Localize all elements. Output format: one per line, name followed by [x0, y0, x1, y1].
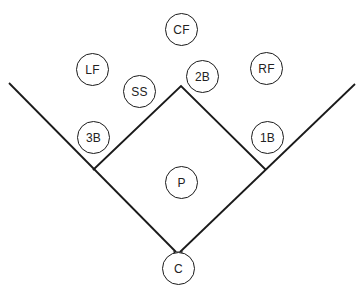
position-label: P	[177, 176, 185, 190]
left-foul-line	[9, 83, 176, 252]
position-label: C	[174, 262, 183, 276]
position-left-field: LF	[76, 53, 109, 86]
position-label: 2B	[195, 70, 210, 84]
position-catcher: C	[162, 252, 195, 285]
position-pitcher: P	[165, 166, 198, 199]
position-third-base: 3B	[77, 121, 110, 154]
position-first-base: 1B	[251, 121, 284, 154]
position-right-field: RF	[250, 52, 283, 85]
position-shortstop: SS	[123, 75, 156, 108]
position-second-base: 2B	[186, 60, 219, 93]
position-label: CF	[173, 23, 189, 37]
position-center-field: CF	[165, 13, 198, 46]
position-label: SS	[131, 85, 147, 99]
infield-basepaths	[93, 86, 266, 170]
right-foul-line	[180, 84, 355, 252]
position-label: 3B	[86, 131, 101, 145]
position-label: 1B	[260, 131, 275, 145]
position-label: RF	[258, 62, 274, 76]
position-label: LF	[85, 63, 99, 77]
baseball-field-diagram: CF LF RF SS 2B 3B 1B P C	[0, 0, 364, 293]
